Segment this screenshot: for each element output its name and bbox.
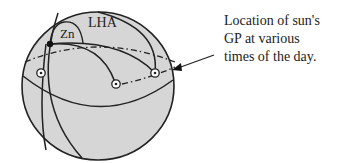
sphere bbox=[22, 12, 174, 160]
gp-caption: Location of sun's GP at various times of… bbox=[224, 12, 320, 66]
caption-line-1: Location of sun's bbox=[224, 12, 320, 30]
pointer-arrow-line bbox=[178, 55, 214, 68]
observer-point bbox=[47, 41, 53, 47]
caption-line-2: GP at various bbox=[224, 30, 320, 48]
caption-line-3: times of the day. bbox=[224, 48, 320, 66]
gp-marker-left bbox=[37, 69, 45, 77]
gp-marker-center bbox=[112, 80, 120, 88]
lha-label: LHA bbox=[88, 15, 118, 30]
zn-label: Zn bbox=[60, 26, 75, 41]
gp-marker-right bbox=[151, 69, 159, 77]
